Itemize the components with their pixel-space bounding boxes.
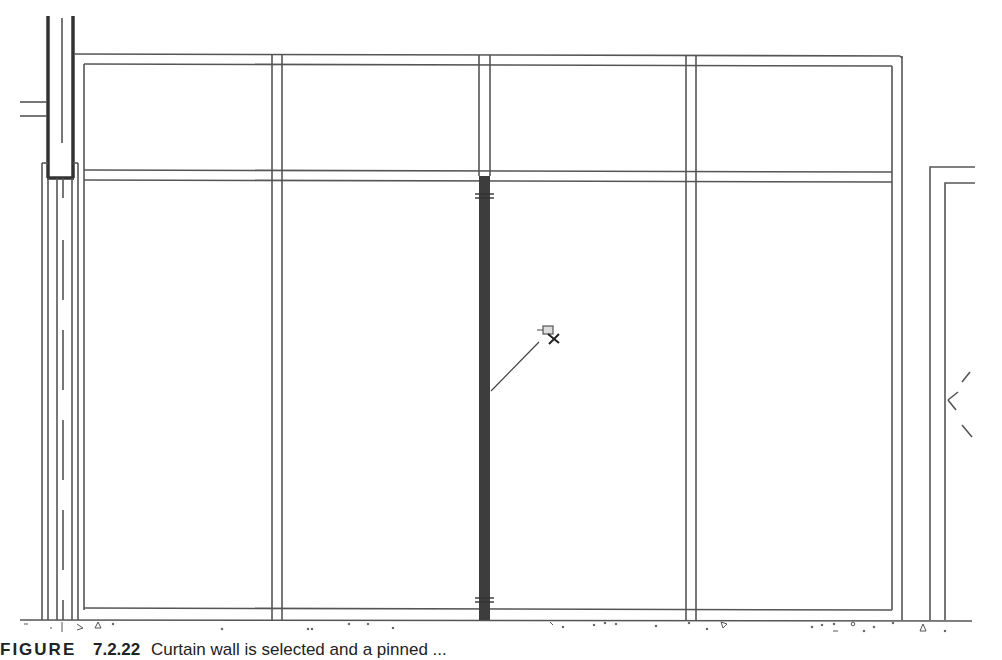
figure-caption-text: Curtain wall is selected and a pinned ..…	[151, 640, 447, 659]
door-frame	[930, 167, 975, 620]
selected-mullion[interactable]	[475, 176, 494, 620]
pin-leader	[491, 342, 539, 391]
ground-hatch	[24, 622, 946, 632]
figure-number: 7.2.22	[93, 640, 140, 659]
figure-label: FIGURE	[0, 640, 76, 659]
pushpin-icon[interactable]	[537, 326, 559, 344]
mullion-3[interactable]	[686, 56, 696, 620]
figure-caption: FIGURE 7.2.22 Curtain wall is selected a…	[0, 640, 1002, 660]
mullion-1[interactable]	[272, 55, 282, 620]
curtain-wall-frame[interactable]	[20, 54, 972, 621]
mullion-2-upper[interactable]	[479, 55, 490, 176]
left-column	[20, 16, 78, 620]
